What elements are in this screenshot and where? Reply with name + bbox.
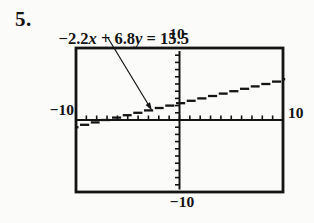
- textbook-figure: 5. −2.2x + 6.8y = 15.5 10 −10 10 −10: [0, 0, 314, 223]
- calculator-graph-svg: [0, 0, 314, 223]
